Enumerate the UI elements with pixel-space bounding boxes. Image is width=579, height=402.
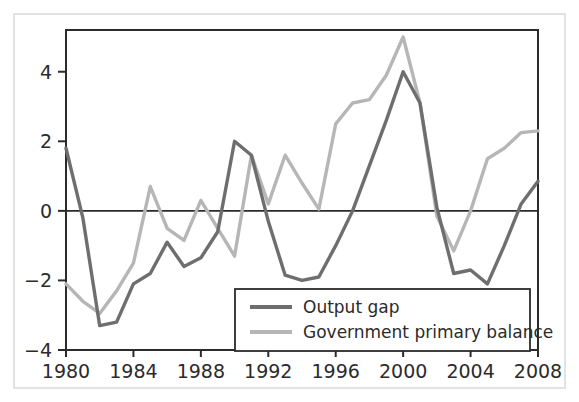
y-axis-tick-labels: −4−2024 [24, 61, 52, 361]
x-tick-label-1980: 1980 [42, 360, 90, 382]
x-axis-tick-labels: 19801984198819921996200020042008 [42, 360, 562, 382]
chart-legend: Output gap Government primary balance [235, 289, 553, 351]
x-tick-label-1984: 1984 [109, 360, 157, 382]
y-axis-ticks [58, 72, 66, 350]
y-tick-label-0: 0 [40, 200, 52, 222]
legend-label-government-primary-balance: Government primary balance [303, 322, 553, 342]
y-tick-label--4: −4 [24, 339, 52, 361]
y-tick-label-4: 4 [40, 61, 52, 83]
x-tick-label-1992: 1992 [244, 360, 292, 382]
y-tick-label-2: 2 [40, 130, 52, 152]
x-tick-label-2004: 2004 [446, 360, 494, 382]
y-tick-label--2: −2 [24, 269, 52, 291]
line-chart: −4−2024 19801984198819921996200020042008… [0, 0, 579, 402]
x-tick-label-2008: 2008 [514, 360, 562, 382]
legend-label-output-gap: Output gap [303, 297, 399, 317]
x-tick-label-1996: 1996 [312, 360, 360, 382]
x-tick-label-2000: 2000 [379, 360, 427, 382]
chart-figure: −4−2024 19801984198819921996200020042008… [0, 0, 579, 402]
x-tick-label-1988: 1988 [177, 360, 225, 382]
